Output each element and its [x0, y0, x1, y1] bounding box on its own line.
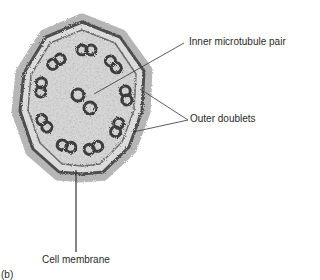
panel-label: (b): [1, 270, 13, 280]
label-outer-doublets: Outer doublets: [190, 114, 256, 124]
label-cell-membrane: Cell membrane: [42, 255, 110, 265]
label-inner-microtubule-pair: Inner microtubule pair: [189, 37, 286, 47]
